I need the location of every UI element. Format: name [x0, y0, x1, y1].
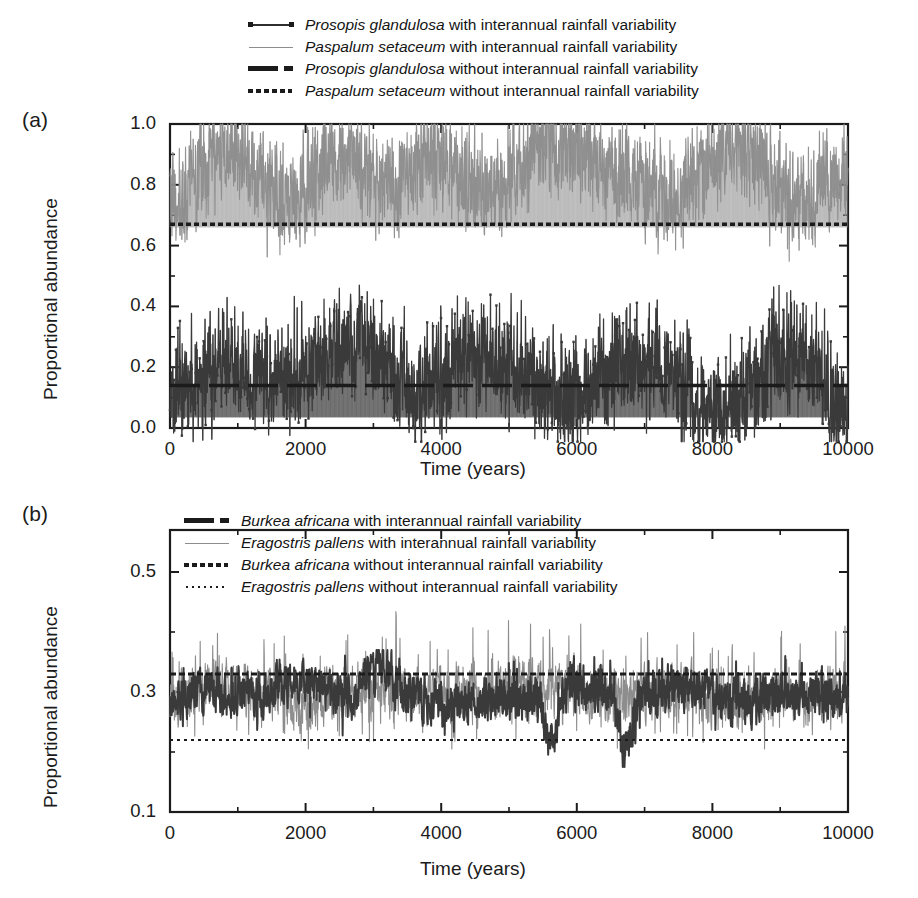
- series-marker: [782, 309, 784, 311]
- legend-swatch-line-marker-icon: [248, 18, 294, 32]
- series-marker: [327, 365, 329, 367]
- series-marker: [699, 411, 701, 413]
- series-marker: [345, 359, 347, 361]
- legend-swatch-thin-dot-icon: [184, 580, 230, 594]
- series-marker: [584, 410, 586, 412]
- series-marker: [719, 416, 721, 418]
- species-name: Paspalum setaceum: [305, 38, 445, 55]
- series-marker: [266, 355, 268, 357]
- series-marker: [195, 372, 197, 374]
- series-marker: [189, 371, 191, 373]
- series-marker: [458, 365, 460, 367]
- series-marker: [297, 421, 299, 423]
- legend-item-label: Burkea africana with interannual rainfal…: [241, 510, 581, 532]
- series-marker: [380, 300, 382, 302]
- series-marker: [580, 391, 582, 393]
- series-marker: [398, 380, 400, 382]
- legend-item-label: Eragostris pallens with interannual rain…: [241, 532, 596, 554]
- series-marker: [295, 373, 297, 375]
- series-marker: [339, 360, 341, 362]
- series-marker: [523, 358, 525, 360]
- series-marker: [323, 386, 325, 388]
- series-marker: [511, 363, 513, 365]
- y-tick-label: 0.6: [62, 234, 156, 256]
- series-marker: [568, 405, 570, 407]
- series-marker: [434, 372, 436, 374]
- series-marker: [242, 386, 244, 388]
- series-marker: [287, 353, 289, 355]
- series-marker: [466, 389, 468, 391]
- series-marker: [644, 358, 646, 360]
- series-marker: [826, 408, 828, 410]
- legend-item-suffix: without interannual rainfall variability: [350, 556, 603, 573]
- series-marker: [748, 391, 750, 393]
- series-marker: [650, 347, 652, 349]
- series-marker: [274, 392, 276, 394]
- series-marker: [173, 379, 175, 381]
- species-name: Eragostris pallens: [241, 534, 364, 551]
- y-tick-label: 0.8: [62, 173, 156, 195]
- series-marker: [191, 368, 193, 370]
- series-marker: [365, 393, 367, 395]
- x-tick-label: 0: [110, 822, 230, 844]
- series-marker: [286, 418, 288, 420]
- species-name: Burkea africana: [241, 556, 350, 573]
- series-marker: [256, 336, 258, 338]
- series-marker: [525, 343, 527, 345]
- x-tick-label: 6000: [517, 822, 637, 844]
- legend-item-label: Burkea africana without interannual rain…: [241, 554, 603, 576]
- series-marker: [200, 391, 202, 393]
- series-marker: [620, 368, 622, 370]
- series-marker: [460, 395, 462, 397]
- series-marker: [655, 377, 657, 379]
- series-marker: [432, 325, 434, 327]
- series-marker: [268, 420, 270, 422]
- series-marker: [828, 423, 830, 425]
- series-marker: [701, 399, 703, 401]
- series-marker: [517, 383, 519, 385]
- x-tick-label: 10000: [788, 438, 908, 460]
- series-marker: [179, 320, 181, 322]
- series-marker: [816, 396, 818, 398]
- series-marker: [218, 354, 220, 356]
- series-marker: [596, 390, 598, 392]
- series-marker: [311, 340, 313, 342]
- series-marker: [594, 345, 596, 347]
- series-marker: [446, 325, 448, 327]
- series-marker: [321, 346, 323, 348]
- legend-item-suffix: with interannual rainfall variability: [445, 38, 677, 55]
- series-marker: [802, 303, 804, 305]
- species-name: Eragostris pallens: [241, 578, 364, 595]
- x-tick-label: 4000: [381, 438, 501, 460]
- series-marker: [648, 369, 650, 371]
- legend-swatch-thick-dash-icon: [248, 62, 294, 76]
- series-marker: [359, 357, 361, 359]
- series-marker: [709, 398, 711, 400]
- series-marker: [491, 328, 493, 330]
- y-tick-label: 0.2: [62, 355, 156, 377]
- series-marker: [806, 388, 808, 390]
- series-marker: [606, 356, 608, 358]
- series-marker: [169, 409, 171, 411]
- series-marker: [582, 415, 584, 417]
- y-tick-label: 0.0: [62, 416, 156, 438]
- series-marker: [402, 356, 404, 358]
- series-marker: [835, 405, 837, 407]
- series-marker: [373, 380, 375, 382]
- species-name: Paspalum setaceum: [305, 82, 445, 99]
- series-marker: [262, 363, 264, 365]
- series-marker: [278, 370, 280, 372]
- series-marker: [727, 426, 729, 428]
- series-marker: [222, 365, 224, 367]
- series-marker: [208, 372, 210, 374]
- x-tick-label: 2000: [246, 438, 366, 460]
- series-marker: [363, 347, 365, 349]
- x-tick-label: 6000: [517, 438, 637, 460]
- series-marker: [309, 379, 311, 381]
- series-marker: [513, 382, 515, 384]
- x-tick-label: 8000: [652, 822, 772, 844]
- series-marker: [780, 342, 782, 344]
- series-marker: [485, 349, 487, 351]
- series-marker: [612, 401, 614, 403]
- series-marker: [533, 337, 535, 339]
